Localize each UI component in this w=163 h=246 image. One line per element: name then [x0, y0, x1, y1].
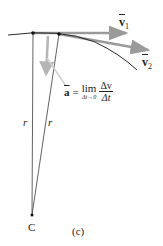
acceleration-formula: a = lim Δt→0 Δv Δt	[64, 80, 113, 103]
delta-v-arrow	[46, 36, 48, 74]
point-2	[57, 32, 61, 36]
radius-line-1	[32, 33, 33, 215]
limit-subscript: Δt→0	[82, 94, 96, 101]
fraction-numerator: Δv	[99, 80, 112, 92]
fraction-denominator: Δt	[102, 92, 111, 103]
point-1	[31, 31, 35, 35]
panel-label: (c)	[72, 226, 84, 237]
v2-label: v2	[142, 56, 152, 68]
trajectory-curve	[8, 33, 137, 70]
radius-label-2: r	[48, 117, 52, 128]
limit-word: lim	[82, 83, 97, 94]
v1-label: v1	[119, 16, 129, 28]
formula-fraction: Δv Δt	[99, 80, 112, 103]
v1-subscript: 1	[125, 22, 129, 31]
v2-subscript: 2	[148, 62, 152, 71]
formula-equals: =	[73, 86, 79, 98]
formula-lhs: a	[64, 86, 70, 98]
velocity-arrow-v2	[59, 34, 148, 50]
radius-label-1: r	[23, 117, 27, 128]
formula-limit: lim Δt→0	[82, 83, 97, 101]
center-point	[31, 214, 34, 217]
center-label: C	[28, 222, 35, 233]
